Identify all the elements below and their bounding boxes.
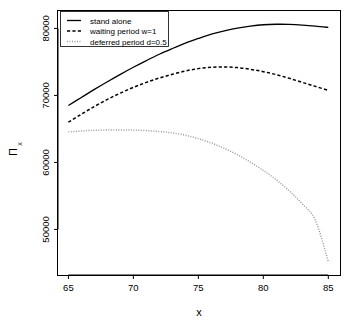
legend-label-1: stand alone xyxy=(90,17,132,26)
x-tick-label: 75 xyxy=(193,282,204,293)
plot-panel-border xyxy=(58,11,341,276)
legend-label-2: waiting period w=1 xyxy=(89,27,157,36)
y-tick-label: 50000 xyxy=(40,216,51,242)
x-tick-label: 85 xyxy=(323,282,334,293)
y-tick-label: 70000 xyxy=(40,82,51,108)
x-axis-title-text: x xyxy=(196,306,202,318)
chart-legend: stand alonewaiting period w=1deferred pe… xyxy=(61,12,169,47)
chart-curves xyxy=(68,24,328,261)
curve-series-2 xyxy=(68,67,328,122)
curve-series-3 xyxy=(68,130,328,262)
x-tick-label: 70 xyxy=(128,282,139,293)
x-tick-label: 65 xyxy=(63,282,74,293)
chart-svg: 50000600007000080000 6570758085 Π x x st… xyxy=(0,0,362,325)
y-tick-label: 80000 xyxy=(40,15,51,41)
chart-figure: 50000600007000080000 6570758085 Π x x st… xyxy=(0,0,362,325)
y-axis-title-subscript: x xyxy=(16,142,23,146)
legend-label-3: deferred period d=0.5 xyxy=(90,38,167,47)
x-axis: 6570758085 xyxy=(63,275,333,293)
y-tick-label: 60000 xyxy=(40,149,51,175)
x-tick-label: 80 xyxy=(258,282,269,293)
y-axis-title: Π x xyxy=(7,142,23,156)
y-axis-title-text: Π xyxy=(7,148,19,156)
y-axis: 50000600007000080000 xyxy=(40,15,58,242)
